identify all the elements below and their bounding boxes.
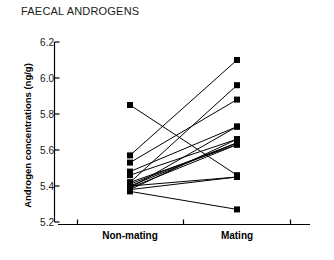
data-point-marker (234, 136, 240, 142)
data-lines-group (130, 60, 237, 209)
chart-container: FAECAL ANDROGENS Androgen concentrations… (0, 0, 334, 260)
x-axis-tick-label: Non-mating (102, 230, 158, 241)
data-line (130, 191, 237, 209)
data-point-marker (127, 152, 133, 158)
data-point-marker (127, 188, 133, 194)
data-line (130, 60, 237, 155)
data-point-marker (234, 97, 240, 103)
x-axis-tick-label: Mating (221, 230, 253, 241)
data-point-marker (234, 142, 240, 148)
data-point-marker (234, 124, 240, 130)
axis-group (55, 42, 311, 225)
data-line (130, 100, 237, 163)
data-point-marker (234, 174, 240, 180)
data-point-marker (234, 57, 240, 63)
data-point-marker (127, 160, 133, 166)
data-point-marker (234, 82, 240, 88)
data-point-marker (127, 102, 133, 108)
plot-area (0, 0, 334, 260)
data-point-marker (127, 172, 133, 178)
data-point-marker (234, 206, 240, 212)
